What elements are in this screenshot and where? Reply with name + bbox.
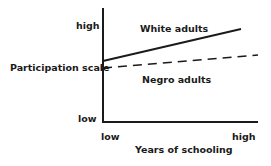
series-label-white-adults: White adults	[140, 24, 208, 34]
y-tick-low: low	[78, 114, 97, 124]
x-tick-low: low	[101, 132, 120, 142]
x-tick-high: high	[232, 132, 256, 142]
chart-plot-area	[0, 0, 271, 166]
x-axis-title: Years of schooling	[135, 145, 233, 155]
y-axis-title: Participation scale	[10, 63, 110, 73]
y-tick-high: high	[76, 21, 100, 31]
series-label-negro-adults: Negro adults	[142, 75, 211, 85]
series-negro-adults-line	[103, 55, 258, 68]
